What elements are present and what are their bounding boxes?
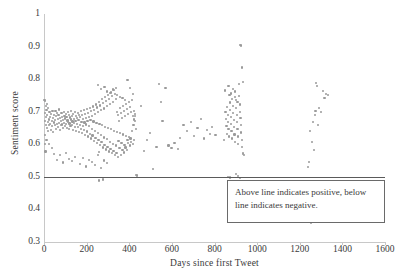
data-point: [130, 111, 132, 113]
data-point: [98, 101, 100, 103]
data-point: [56, 159, 58, 161]
data-point: [132, 143, 134, 145]
data-point: [85, 123, 87, 125]
data-point: [211, 126, 213, 128]
data-point: [236, 101, 238, 103]
data-point: [74, 120, 76, 122]
data-point: [309, 130, 311, 132]
data-point: [140, 105, 142, 107]
y-tick-label: 0.8: [28, 74, 40, 84]
data-point: [80, 110, 82, 112]
data-point: [86, 130, 88, 132]
x-tick-label: 1400: [333, 245, 352, 255]
data-point: [240, 124, 242, 126]
data-point: [48, 118, 50, 120]
data-point: [68, 128, 70, 130]
data-point: [313, 149, 315, 151]
data-point: [129, 144, 131, 146]
data-point: [125, 103, 127, 105]
data-point: [51, 147, 53, 149]
data-point: [133, 110, 135, 112]
data-point: [82, 125, 84, 127]
data-point: [86, 120, 88, 122]
data-point: [92, 120, 94, 122]
data-point: [164, 87, 166, 89]
data-point: [74, 156, 76, 158]
data-point: [81, 132, 83, 134]
data-point: [109, 103, 111, 105]
data-point: [234, 141, 236, 143]
data-point: [99, 104, 101, 106]
x-tick-label: 800: [207, 245, 221, 255]
data-point: [87, 112, 89, 114]
data-point: [323, 97, 325, 99]
x-tick-label: 0: [42, 245, 47, 255]
data-point: [320, 111, 322, 113]
data-point: [125, 135, 127, 137]
data-point: [112, 150, 114, 152]
data-point: [110, 128, 112, 130]
data-point: [238, 83, 240, 85]
data-point: [119, 132, 121, 134]
data-point: [55, 128, 57, 130]
data-point: [71, 160, 73, 162]
data-point: [116, 94, 118, 96]
data-point: [68, 158, 70, 160]
data-point: [103, 86, 105, 88]
data-point: [51, 110, 53, 112]
data-point: [122, 105, 124, 107]
data-point: [59, 154, 61, 156]
data-point: [229, 101, 231, 103]
data-point: [92, 105, 94, 107]
data-point: [312, 121, 314, 123]
data-point: [82, 118, 84, 120]
data-point: [98, 151, 100, 153]
data-point: [186, 130, 188, 132]
data-point: [238, 95, 240, 97]
data-point: [239, 111, 241, 113]
data-point: [116, 111, 118, 113]
data-point: [94, 113, 96, 115]
data-point: [133, 139, 135, 141]
y-axis-tick-labels: 0.30.40.50.60.70.80.91: [0, 0, 40, 276]
data-point: [134, 120, 136, 122]
data-point: [104, 126, 106, 128]
data-point: [115, 87, 117, 89]
data-point: [146, 139, 148, 141]
data-point: [44, 134, 46, 136]
data-point: [241, 66, 243, 68]
data-point: [94, 137, 96, 139]
data-point: [214, 134, 216, 136]
data-point: [128, 101, 130, 103]
data-point: [233, 119, 235, 121]
data-point: [315, 82, 317, 84]
data-point: [51, 125, 53, 127]
data-point: [111, 152, 113, 154]
data-point: [70, 110, 72, 112]
data-point: [103, 144, 105, 146]
data-point: [224, 89, 226, 91]
data-point: [229, 109, 231, 111]
data-point: [83, 109, 85, 111]
data-point: [48, 143, 50, 145]
data-point: [102, 102, 104, 104]
data-point: [127, 113, 129, 115]
data-point: [86, 108, 88, 110]
data-point: [236, 114, 238, 116]
data-point: [104, 96, 106, 98]
data-point: [322, 90, 324, 92]
data-point: [45, 109, 47, 111]
data-point: [182, 124, 184, 126]
data-point: [100, 134, 102, 136]
data-point: [96, 106, 98, 108]
data-point: [318, 107, 320, 109]
data-point: [190, 121, 192, 123]
data-point: [100, 141, 102, 143]
data-point: [314, 114, 316, 116]
data-point: [237, 135, 239, 137]
data-point: [233, 126, 235, 128]
data-point: [95, 103, 97, 105]
data-point: [240, 131, 242, 133]
x-tick-label: 600: [165, 245, 179, 255]
data-point: [241, 146, 243, 148]
